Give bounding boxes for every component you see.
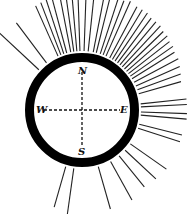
ray-line [138,128,180,142]
ray-line [139,82,181,94]
ray-line [103,1,124,55]
south-label: S [78,147,85,157]
ray-line [141,112,187,114]
ray-line [88,0,94,51]
ray-line [52,0,67,53]
ray-line [139,124,182,135]
east-label: E [120,105,128,115]
ray-line [141,115,187,119]
ray-line [54,167,66,207]
ray-line [141,99,187,104]
ray-line [112,10,142,60]
ray-line [0,29,39,70]
ray-line [84,0,86,51]
ray-line [125,150,156,179]
ray-line [119,156,144,187]
ray-line [67,168,73,214]
ray-line [78,0,80,51]
ray-line [36,6,58,56]
north-label: N [78,66,87,76]
compass-diagram: N S E W [0,0,188,222]
ray-line [130,144,166,169]
ray-line [16,23,46,63]
compass-figure [0,0,188,222]
west-label: W [36,105,47,115]
ray-line [141,105,187,107]
ray-line [106,1,130,56]
ray-line [98,167,110,209]
ray-line [41,3,61,55]
